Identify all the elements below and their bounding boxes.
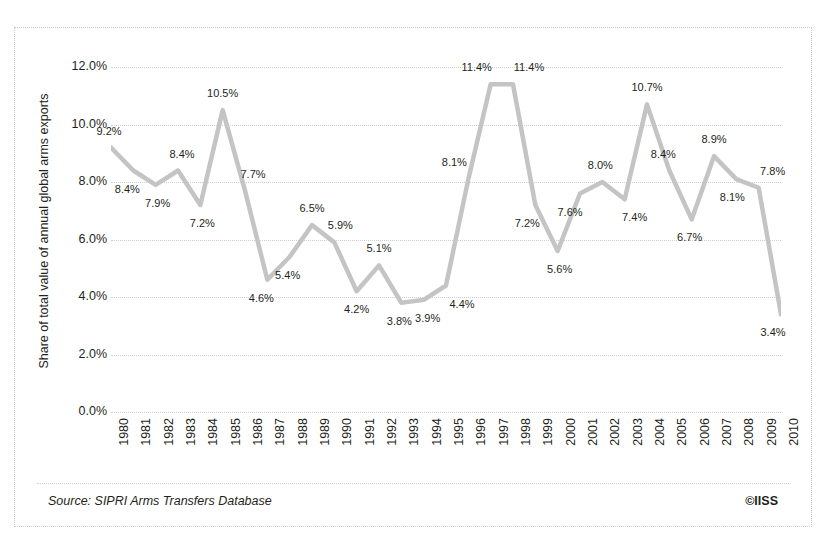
y-axis-tick-label: 6.0% <box>41 232 107 246</box>
data-point-label: 8.1% <box>720 191 745 203</box>
source-note: Source: SIPRI Arms Transfers Database <box>48 494 272 508</box>
data-point-label: 7.7% <box>240 168 265 180</box>
data-point-label: 8.4% <box>115 183 140 195</box>
x-axis-tick-label: 1990 <box>340 418 354 446</box>
x-axis-tick-label: 1981 <box>139 418 153 446</box>
data-point-label: 7.9% <box>145 197 170 209</box>
y-axis-tick-label: 12.0% <box>41 59 107 73</box>
x-axis-tick-label: 1991 <box>363 418 377 446</box>
data-point-label: 9.2% <box>96 125 121 137</box>
x-axis-tick-label: 1997 <box>497 418 511 446</box>
x-axis-tick-label: 1984 <box>206 418 220 446</box>
data-point-label: 11.4% <box>514 61 544 73</box>
data-point-label: 5.6% <box>547 263 572 275</box>
y-axis-tick-label: 8.0% <box>41 174 107 188</box>
x-axis-tick-label: 2005 <box>675 418 689 446</box>
x-axis-tick-label: 1982 <box>162 418 176 446</box>
data-point-label: 8.9% <box>701 133 726 145</box>
x-axis-tick-label: 1980 <box>117 418 131 446</box>
data-point-label: 10.5% <box>207 87 238 99</box>
data-point-label: 7.6% <box>557 206 582 218</box>
x-axis-tick-label: 1986 <box>251 418 265 446</box>
chart-figure: Share of total value of annual global ar… <box>14 27 812 527</box>
x-axis-tick-label: 2008 <box>742 418 756 446</box>
data-point-label: 8.0% <box>588 159 613 171</box>
data-point-label: 3.8% <box>387 315 412 327</box>
data-point-label: 6.7% <box>677 231 702 243</box>
data-point-label: 8.4% <box>651 148 676 160</box>
data-point-label: 3.4% <box>760 326 785 338</box>
x-axis-tick-label: 1993 <box>407 418 421 446</box>
x-axis-tick-label: 1985 <box>229 418 243 446</box>
x-axis-tick-label: 1994 <box>430 418 444 446</box>
x-axis-tick-label: 2010 <box>787 418 801 446</box>
x-axis-tick-label: 1988 <box>296 418 310 446</box>
x-axis-tick-label: 2009 <box>765 418 779 446</box>
y-axis-tick-label: 4.0% <box>41 289 107 303</box>
data-point-label: 5.4% <box>275 269 300 281</box>
x-axis-ticks: 1980198119821983198419851986198719881989… <box>111 418 781 480</box>
data-point-label: 4.4% <box>449 298 474 310</box>
footer-divider <box>37 483 789 484</box>
x-axis-tick-label: 2007 <box>720 418 734 446</box>
data-point-label: 3.9% <box>415 312 440 324</box>
data-point-label: 7.4% <box>622 211 647 223</box>
x-axis-tick-label: 1998 <box>519 418 533 446</box>
x-axis-tick-label: 1983 <box>184 418 198 446</box>
x-axis-tick-label: 1995 <box>452 418 466 446</box>
data-point-label: 11.4% <box>461 61 491 73</box>
x-axis-tick-label: 2004 <box>653 418 667 446</box>
data-point-label: 6.5% <box>299 202 324 214</box>
x-axis-tick-label: 1989 <box>318 418 332 446</box>
copyright-credit: ©IISS <box>745 494 778 508</box>
data-point-label: 7.2% <box>515 217 540 229</box>
data-point-label: 8.4% <box>169 148 194 160</box>
data-point-label: 5.9% <box>328 219 353 231</box>
x-axis-tick-label: 1996 <box>474 418 488 446</box>
x-axis-tick-label: 2006 <box>698 418 712 446</box>
series-polyline <box>111 84 781 314</box>
y-axis-tick-label: 0.0% <box>41 404 107 418</box>
x-axis-tick-label: 2002 <box>608 418 622 446</box>
data-point-label: 4.2% <box>344 303 369 315</box>
data-point-label: 7.8% <box>760 165 785 177</box>
data-point-label: 8.1% <box>442 156 467 168</box>
x-axis-tick-label: 1999 <box>541 418 555 446</box>
x-axis-tick-label: 2003 <box>631 418 645 446</box>
data-point-label: 10.7% <box>631 81 662 93</box>
data-point-label: 7.2% <box>190 217 215 229</box>
data-point-label: 5.1% <box>366 242 391 254</box>
x-axis-tick-label: 1987 <box>273 418 287 446</box>
gridline <box>111 412 781 413</box>
x-axis-tick-label: 2001 <box>586 418 600 446</box>
data-point-label: 4.6% <box>249 292 274 304</box>
x-axis-tick-label: 2000 <box>564 418 578 446</box>
plot-area: 0.0%2.0%4.0%6.0%8.0%10.0%12.0% 9.2%8.4%7… <box>111 67 781 412</box>
y-axis-tick-label: 2.0% <box>41 347 107 361</box>
x-axis-tick-label: 1992 <box>385 418 399 446</box>
